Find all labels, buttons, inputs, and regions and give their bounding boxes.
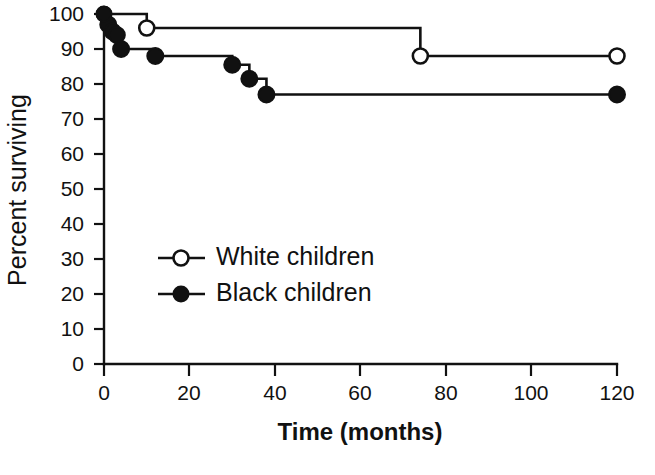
x-tick-label-20: 20: [177, 381, 200, 404]
x-tick-label-80: 80: [434, 381, 457, 404]
data-point-black-34mo: [241, 71, 257, 87]
chart-legend: White children Black children: [158, 242, 374, 306]
y-tick-label-50: 50: [61, 177, 84, 200]
x-tick-label-40: 40: [263, 381, 286, 404]
data-point-black-12mo: [147, 48, 163, 64]
x-axis-label: Time (months): [278, 418, 443, 445]
data-point-black-4mo: [113, 41, 129, 57]
survival-curve-figure: Percent surviving 100 90 80 70 60 50 40 …: [0, 0, 655, 475]
y-axis-label: Percent surviving: [3, 94, 31, 286]
series-path-white-children: [104, 14, 617, 56]
y-tick-label-0: 0: [72, 352, 84, 375]
y-tick-label-80: 80: [61, 72, 84, 95]
data-point-white-10mo: [139, 21, 154, 36]
legend-marker-white-open-circle-icon: [174, 251, 189, 266]
kaplan-meier-chart: Percent surviving 100 90 80 70 60 50 40 …: [0, 0, 655, 475]
x-tick-label-60: 60: [348, 381, 371, 404]
y-tick-label-40: 40: [61, 212, 84, 235]
y-tick-label-100: 100: [49, 2, 84, 25]
x-tick-label-100: 100: [513, 381, 548, 404]
y-tick-label-30: 30: [61, 247, 84, 270]
series-path-black-children: [104, 14, 617, 95]
legend-marker-black-filled-circle-icon: [174, 287, 189, 302]
y-tick-label-70: 70: [61, 107, 84, 130]
x-tick-label-0: 0: [98, 381, 110, 404]
data-point-white-74mo: [413, 49, 428, 64]
y-tick-label-90: 90: [61, 37, 84, 60]
x-tick-label-120: 120: [599, 381, 634, 404]
data-point-black-120mo: [609, 87, 625, 103]
y-tick-label-10: 10: [61, 317, 84, 340]
data-point-black-30mo: [224, 57, 240, 73]
data-point-black-38mo: [258, 87, 274, 103]
legend-label-white: White children: [216, 242, 374, 270]
legend-label-black: Black children: [216, 278, 372, 306]
data-point-black-0mo: [97, 7, 112, 22]
data-point-white-120mo: [610, 49, 625, 64]
y-tick-label-60: 60: [61, 142, 84, 165]
y-tick-label-20: 20: [61, 282, 84, 305]
series-layer: [97, 7, 626, 103]
